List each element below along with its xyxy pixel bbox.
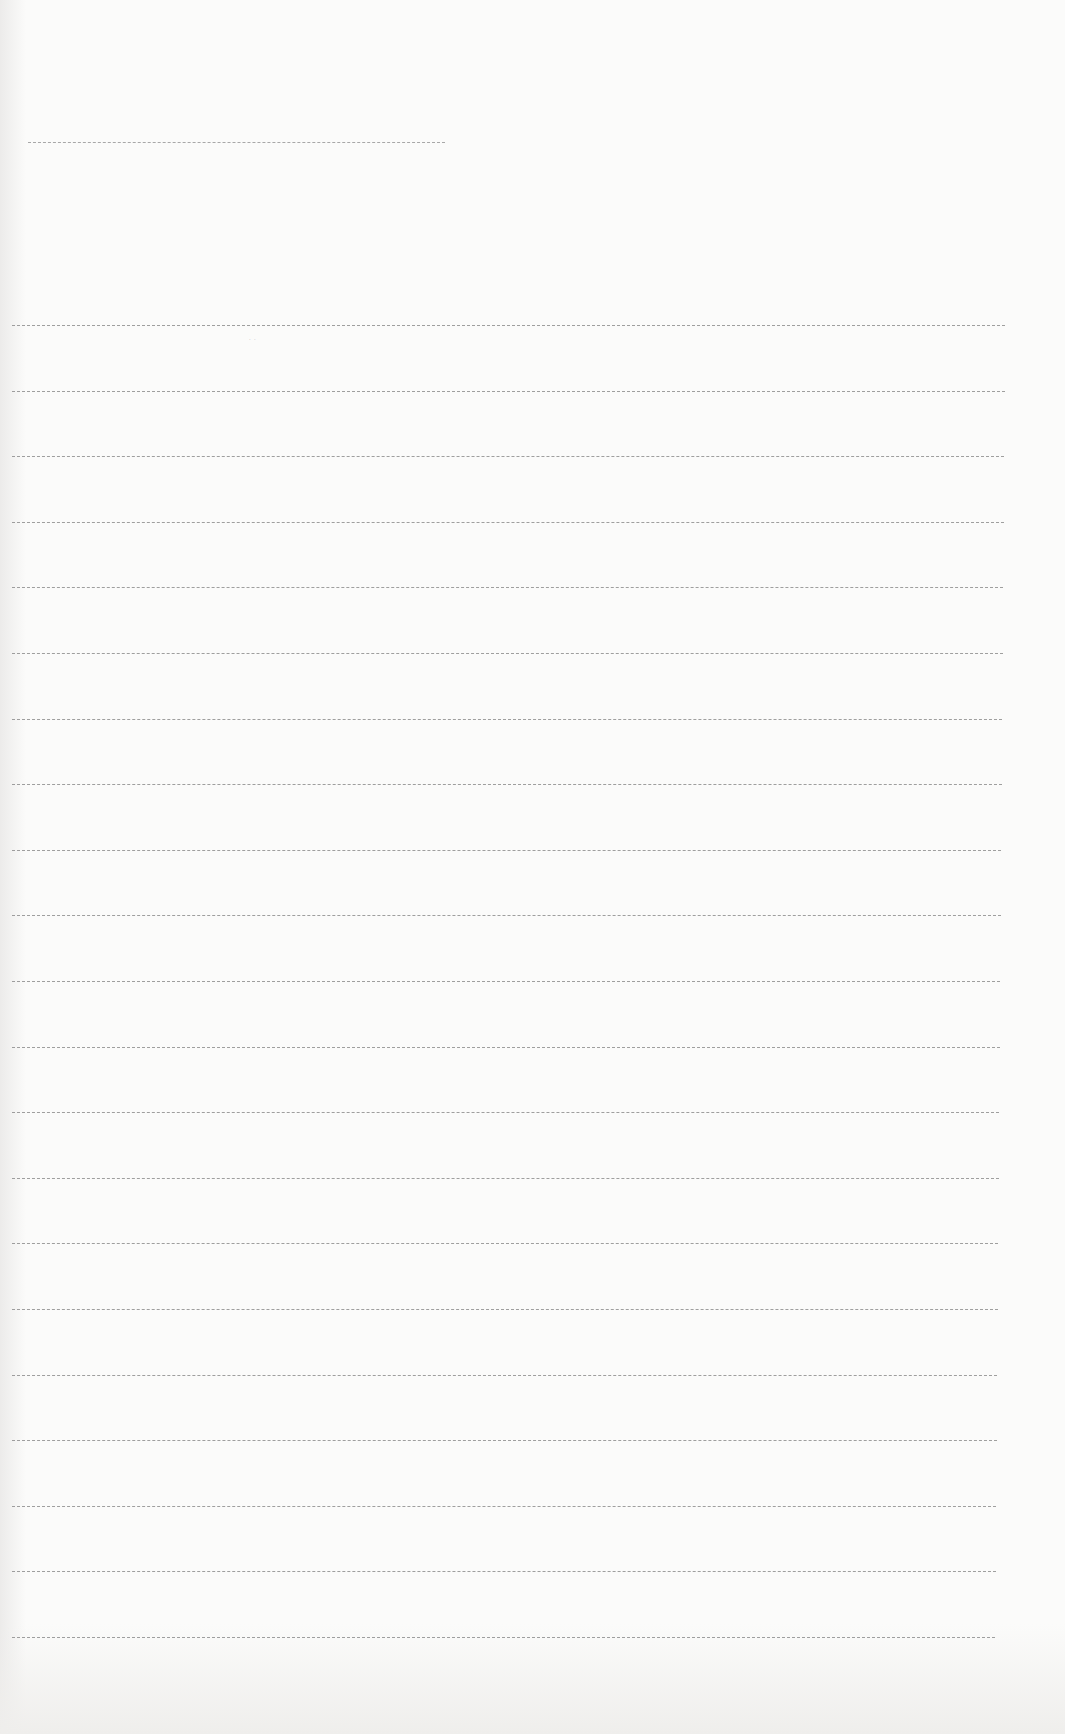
ruled-line	[12, 1506, 996, 1508]
ruled-line	[12, 784, 1002, 786]
ruled-line	[12, 915, 1001, 917]
ruled-line	[12, 1047, 1000, 1049]
ruled-line	[12, 1571, 996, 1573]
ruled-line	[12, 325, 1005, 327]
ruled-line	[12, 1112, 999, 1114]
ruled-lines	[0, 0, 1065, 1734]
ruled-line	[12, 981, 1000, 983]
ruled-line	[12, 1637, 995, 1639]
ruled-line	[12, 1309, 998, 1311]
ruled-line	[12, 456, 1004, 458]
ruled-line	[12, 587, 1003, 589]
ruled-line	[12, 522, 1004, 524]
ruled-line	[12, 850, 1001, 852]
ruled-line	[12, 1440, 997, 1442]
ruled-line	[12, 1243, 998, 1245]
ruled-line	[12, 719, 1002, 721]
ruled-line	[12, 653, 1003, 655]
ruled-line	[12, 391, 1005, 393]
ruled-line	[12, 1375, 997, 1377]
ruled-line	[12, 1178, 999, 1180]
